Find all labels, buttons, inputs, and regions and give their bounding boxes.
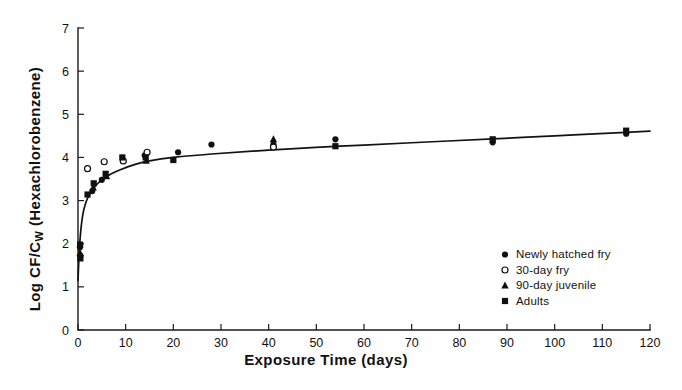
y-axis-tick-labels: 01234567 <box>62 22 69 338</box>
data-point-filled-square <box>103 171 109 177</box>
data-point-filled-square <box>143 154 149 160</box>
legend-item: 90-day juvenile <box>501 279 596 291</box>
y-tick-label: 0 <box>62 324 69 338</box>
x-tick-label: 90 <box>500 336 514 350</box>
legend-marker-open-circle <box>502 267 508 273</box>
legend-label: 90-day juvenile <box>516 279 596 291</box>
x-tick-label: 70 <box>405 336 419 350</box>
figure-container: 01234567 0102030405060708090100110120 Ne… <box>0 0 682 390</box>
x-tick-label: 100 <box>544 336 565 350</box>
y-tick-label: 5 <box>62 108 69 122</box>
data-point-filled-square <box>77 255 83 261</box>
y-tick-label: 3 <box>62 194 69 208</box>
data-point-open-circle <box>85 166 91 172</box>
x-tick-label: 10 <box>119 336 133 350</box>
data-point-filled-circle <box>208 141 214 147</box>
data-point-filled-square <box>91 180 97 186</box>
legend-marker-filled-square <box>502 298 508 304</box>
x-tick-label: 20 <box>166 336 180 350</box>
legend-label: Adults <box>516 295 549 307</box>
data-point-filled-circle <box>175 149 181 155</box>
data-point-filled-square <box>490 136 496 142</box>
x-tick-label: 120 <box>640 336 661 350</box>
legend-label: 30-day fry <box>516 264 569 276</box>
y-axis-title: Log CF/CW (Hexachlorobenzene) <box>26 67 45 312</box>
data-points <box>76 128 629 262</box>
x-tick-label: 0 <box>75 336 82 350</box>
data-point-filled-square <box>119 154 125 160</box>
scatter-plot: 01234567 0102030405060708090100110120 Ne… <box>0 0 682 390</box>
series-adults <box>77 128 629 262</box>
legend-marker-filled-triangle <box>501 282 508 289</box>
data-point-filled-square <box>77 241 83 247</box>
data-point-filled-square <box>84 191 90 197</box>
legend-item: Newly hatched fry <box>502 248 611 260</box>
y-tick-label: 4 <box>62 151 69 165</box>
y-tick-label: 2 <box>62 237 69 251</box>
y-tick-label: 7 <box>62 22 69 36</box>
x-tick-label: 50 <box>309 336 323 350</box>
x-tick-label: 40 <box>262 336 276 350</box>
y-tick-label: 6 <box>62 65 69 79</box>
data-point-filled-square <box>170 157 176 163</box>
data-point-filled-square <box>623 128 629 134</box>
data-point-filled-triangle <box>270 135 277 142</box>
data-point-open-circle <box>101 159 107 165</box>
legend: Newly hatched fry30-day fry90-day juveni… <box>501 248 611 307</box>
series-newly-hatched-fry <box>77 131 629 259</box>
x-tick-label: 110 <box>592 336 612 350</box>
legend-item: Adults <box>502 295 549 307</box>
x-tick-label: 30 <box>214 336 228 350</box>
series-30-day-fry <box>85 144 277 172</box>
data-point-filled-square <box>332 143 338 149</box>
x-tick-label: 60 <box>357 336 371 350</box>
x-tick-label: 80 <box>452 336 466 350</box>
legend-marker-filled-circle <box>502 251 508 257</box>
x-axis-tick-labels: 0102030405060708090100110120 <box>75 336 661 350</box>
data-point-filled-circle <box>332 136 338 142</box>
legend-item: 30-day fry <box>502 264 569 276</box>
x-axis-title: Exposure Time (days) <box>244 351 408 368</box>
legend-label: Newly hatched fry <box>516 248 611 260</box>
y-tick-label: 1 <box>62 280 69 294</box>
axis-titles: Exposure Time (days)Log CF/CW (Hexachlor… <box>26 67 408 368</box>
data-point-open-circle <box>270 144 276 150</box>
